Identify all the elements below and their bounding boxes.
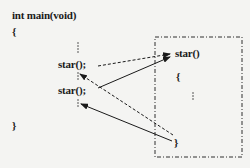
ellipsis-icon — [77, 99, 78, 106]
diagram-graphics — [0, 0, 250, 168]
return-arrow-solid — [81, 104, 172, 141]
ellipsis-icon — [192, 92, 193, 99]
ellipsis-icon — [77, 42, 78, 52]
call-arrow-dashed — [98, 54, 170, 66]
call-arrow-solid — [98, 57, 170, 88]
return-arrow-dashed — [80, 74, 173, 135]
ellipsis-icon — [77, 72, 78, 79]
